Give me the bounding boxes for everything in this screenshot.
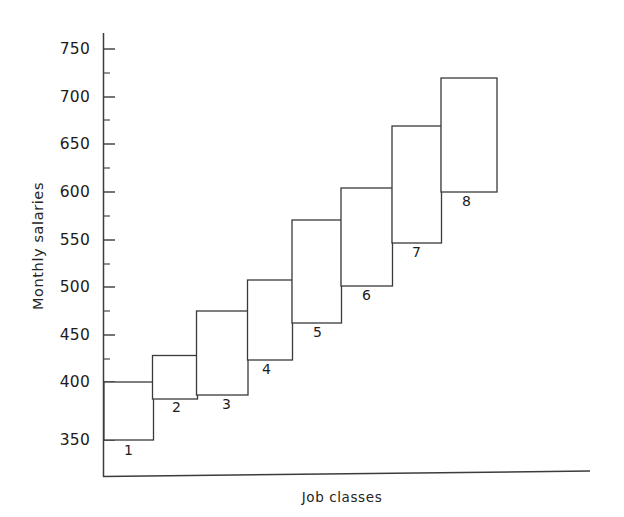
salary-box-8 <box>441 78 497 192</box>
box-label-7: 7 <box>412 244 421 260</box>
salary-box-2 <box>153 356 198 400</box>
salary-box-6 <box>341 188 393 286</box>
salary-box-4 <box>248 280 293 360</box>
box-label-2: 2 <box>172 399 181 415</box>
box-label-5: 5 <box>313 324 322 340</box>
x-axis-line <box>103 471 590 477</box>
box-label-8: 8 <box>462 193 471 209</box>
box-label-4: 4 <box>262 361 271 377</box>
plot-area <box>0 0 624 517</box>
box-label-6: 6 <box>362 287 371 303</box>
salary-box-3 <box>197 311 249 395</box>
x-axis-title: Job classes <box>277 489 407 505</box>
salary-box-7 <box>392 126 442 243</box>
salary-range-chart: Monthly salaries 750 700 650 600 550 500… <box>0 0 624 517</box>
salary-box-5 <box>292 220 342 323</box>
salary-box-1 <box>104 382 154 440</box>
box-label-1: 1 <box>124 442 133 458</box>
box-label-3: 3 <box>222 396 231 412</box>
